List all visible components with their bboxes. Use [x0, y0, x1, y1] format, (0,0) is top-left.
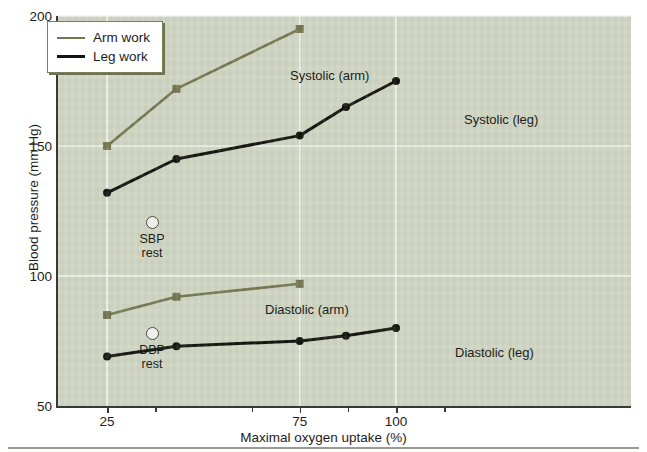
legend-label-leg-work: Leg work: [93, 49, 148, 64]
legend[interactable]: Arm work Leg work: [47, 21, 163, 73]
series-systolic-leg: [103, 77, 400, 197]
data-point: [392, 324, 400, 332]
x-tick-label: 75: [292, 414, 307, 429]
sbp-rest-label-line2: rest: [124, 246, 180, 260]
data-point: [103, 142, 111, 150]
data-point: [342, 103, 350, 111]
data-point: [296, 337, 304, 345]
annotation-systolic-arm: Systolic (arm): [290, 68, 369, 83]
x-minor-tick-mark: [155, 406, 157, 412]
dbp-rest-marker: DBPrest: [124, 327, 180, 371]
legend-item-leg-work[interactable]: Leg work: [57, 47, 150, 66]
x-tick-mark: [396, 406, 398, 413]
x-tick-mark: [300, 406, 302, 413]
data-point: [296, 280, 304, 288]
x-axis-label: Maximal oxygen uptake (%): [0, 430, 647, 445]
sbp-rest-label-line1: SBP: [124, 232, 180, 246]
y-tick-label: 50: [4, 399, 52, 414]
dbp-rest-label-line2: rest: [124, 357, 180, 371]
data-point: [342, 332, 350, 340]
data-point: [172, 293, 180, 301]
legend-label-arm-work: Arm work: [93, 30, 150, 45]
y-axis-label: Blood pressure (mm Hg): [26, 88, 41, 308]
data-point: [172, 155, 180, 163]
y-axis-line: [56, 16, 58, 407]
data-point: [103, 311, 111, 319]
legend-swatch-arm-work: [57, 37, 85, 39]
x-tick-label: 25: [100, 414, 115, 429]
x-tick-mark: [107, 406, 109, 413]
data-point: [296, 25, 304, 33]
open-circle-icon: [146, 327, 159, 340]
data-point: [296, 132, 304, 140]
x-minor-tick-mark: [444, 406, 446, 412]
x-minor-tick-mark: [252, 406, 254, 412]
x-tick-label: 100: [385, 414, 408, 429]
legend-item-arm-work[interactable]: Arm work: [57, 28, 150, 47]
annotation-diastolic-arm: Diastolic (arm): [265, 302, 349, 317]
x-axis-line: [56, 406, 631, 408]
legend-swatch-leg-work: [57, 55, 85, 58]
data-point: [392, 77, 400, 85]
dbp-rest-label-line1: DBP: [124, 343, 180, 357]
sbp-rest-marker: SBPrest: [124, 216, 180, 260]
chart-figure: 50100150200 2575100 Blood pressure (mm H…: [0, 0, 647, 452]
y-tick-label: 200: [4, 9, 52, 24]
x-minor-tick-mark: [348, 406, 350, 412]
annotation-diastolic-leg: Diastolic (leg): [455, 345, 534, 360]
annotation-systolic-leg: Systolic (leg): [464, 112, 538, 127]
data-point: [103, 189, 111, 197]
data-point: [172, 85, 180, 93]
open-circle-icon: [146, 216, 159, 229]
figure-bottom-rule: [8, 447, 639, 449]
data-point: [103, 353, 111, 361]
